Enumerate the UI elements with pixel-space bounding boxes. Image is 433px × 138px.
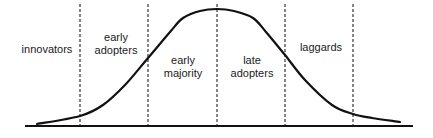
segment-dividers [80, 4, 353, 128]
label-laggards: laggards [300, 41, 342, 54]
label-early-adopters: early adopters [95, 31, 138, 57]
diagram-canvas [0, 0, 433, 138]
label-innovators: innovators [22, 43, 73, 56]
adoption-curve-diagram: innovators early adopters early majority… [0, 0, 433, 138]
label-early-majority: early majority [164, 54, 203, 80]
bell-curve [37, 9, 400, 124]
label-late-adopters: late adopters [231, 54, 274, 80]
